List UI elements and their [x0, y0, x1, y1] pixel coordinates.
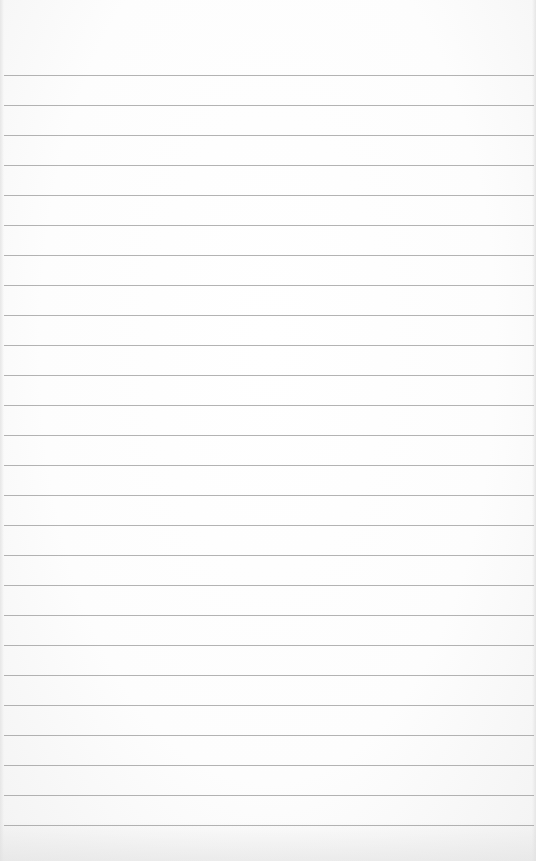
ruled-line — [4, 615, 534, 616]
ruled-line — [4, 255, 534, 256]
ruled-line — [4, 675, 534, 676]
ruled-line — [4, 285, 534, 286]
ruled-line — [4, 705, 534, 706]
paper-left-shadow — [0, 0, 4, 861]
ruled-line — [4, 315, 534, 316]
paper-bottom-shadow — [0, 821, 536, 861]
ruled-line — [4, 375, 534, 376]
paper-right-shadow — [532, 0, 536, 861]
ruled-line — [4, 165, 534, 166]
ruled-line — [4, 525, 534, 526]
lined-paper — [0, 0, 536, 861]
ruled-line — [4, 825, 534, 826]
ruled-line — [4, 555, 534, 556]
ruled-line — [4, 645, 534, 646]
ruled-line — [4, 435, 534, 436]
ruled-line — [4, 465, 534, 466]
ruled-line — [4, 75, 534, 76]
ruled-line — [4, 195, 534, 196]
ruled-line — [4, 495, 534, 496]
ruled-line — [4, 225, 534, 226]
ruled-line — [4, 795, 534, 796]
ruled-line — [4, 765, 534, 766]
ruled-line — [4, 585, 534, 586]
ruled-line — [4, 405, 534, 406]
ruled-line — [4, 345, 534, 346]
ruled-line — [4, 135, 534, 136]
ruled-line — [4, 105, 534, 106]
ruled-line — [4, 735, 534, 736]
